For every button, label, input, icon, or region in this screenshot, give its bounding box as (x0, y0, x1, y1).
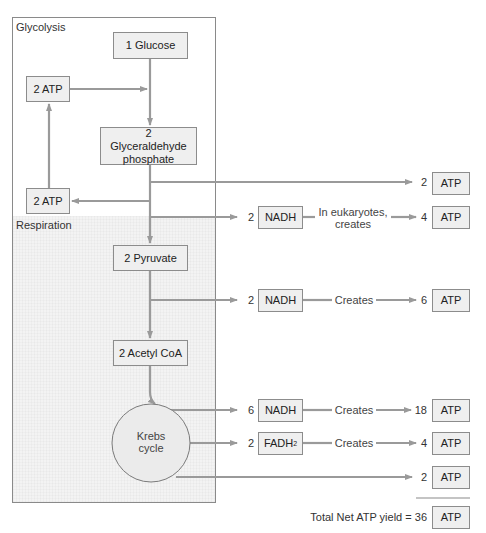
atp-output-box: ATP (432, 206, 470, 229)
glucose-box: 1 Glucose (113, 32, 188, 59)
output-count: 6 (407, 294, 427, 306)
carrier-count: 2 (234, 437, 254, 449)
nadh-box: NADH (258, 289, 303, 312)
carrier-count: 2 (234, 294, 254, 306)
glucose-label: 1 Glucose (126, 39, 176, 52)
fadh2-box: FADH2 (258, 432, 303, 455)
atp-return-box: 2 ATP (26, 188, 70, 214)
output-count: 2 (407, 176, 427, 188)
nadh-label: NADH (265, 294, 296, 307)
atp-label: ATP (441, 471, 462, 484)
conversion-label: Creates (332, 294, 376, 306)
atp-output-box: ATP (432, 399, 470, 422)
fadh2-subscript: 2 (293, 437, 297, 450)
krebs-label: Krebs cycle (126, 430, 176, 454)
g3p-label: 2 Glyceraldehyde phosphate (107, 127, 190, 166)
atp-label: ATP (441, 511, 462, 524)
atp-input-label: 2 ATP (33, 83, 62, 96)
conversion-label: Creates (332, 404, 376, 416)
atp-return-label: 2 ATP (33, 195, 62, 208)
atp-label: ATP (441, 404, 462, 417)
nadh-box: NADH (258, 399, 303, 422)
conversion-label: In eukaryotes, creates (315, 206, 391, 230)
g3p-box: 2 Glyceraldehyde phosphate (100, 127, 197, 165)
output-count: 2 (407, 471, 427, 483)
output-count: 4 (407, 437, 427, 449)
atp-label: ATP (441, 211, 462, 224)
atp-label: ATP (441, 437, 462, 450)
carrier-count: 2 (234, 211, 254, 223)
nadh-box: NADH (258, 206, 303, 229)
atp-output-box: ATP (432, 172, 470, 195)
arrows-layer (0, 0, 486, 533)
atp-output-box: ATP (432, 466, 470, 489)
atp-label: ATP (441, 294, 462, 307)
atp-output-box: ATP (432, 289, 470, 312)
atp-input-box: 2 ATP (26, 76, 70, 102)
acetyl-coa-box: 2 Acetyl CoA (113, 340, 188, 366)
carrier-count: 6 (234, 404, 254, 416)
output-count: 4 (407, 211, 427, 223)
atp-label: ATP (441, 177, 462, 190)
pyruvate-label: 2 Pyruvate (124, 252, 177, 265)
nadh-label: NADH (265, 404, 296, 417)
conversion-label: Creates (332, 437, 376, 449)
total-yield-label: Total Net ATP yield = 36 (300, 511, 427, 523)
acetyl-coa-label: 2 Acetyl CoA (119, 347, 182, 360)
pyruvate-box: 2 Pyruvate (113, 245, 188, 271)
fadh2-label: FADH (264, 437, 293, 450)
total-atp-box: ATP (432, 506, 470, 529)
nadh-label: NADH (265, 211, 296, 224)
output-count: 18 (407, 404, 427, 416)
atp-output-box: ATP (432, 432, 470, 455)
